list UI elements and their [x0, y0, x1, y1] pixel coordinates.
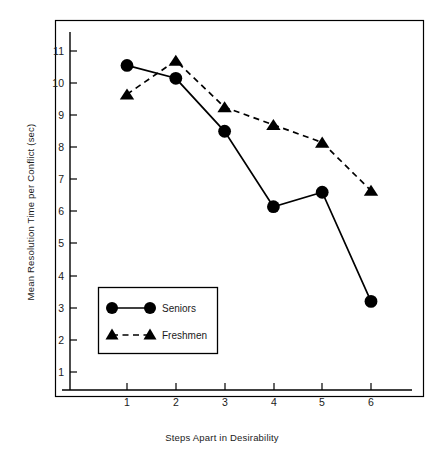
x-tick-label: 2 [173, 396, 179, 408]
y-tick-label: 1 [58, 366, 64, 378]
legend-label-seniors: Seniors [162, 303, 196, 314]
x-tick-label: 5 [319, 396, 325, 408]
legend-box [99, 288, 218, 354]
circle-marker-icon [218, 125, 231, 138]
y-tick-label: 6 [58, 205, 64, 217]
x-tick-label: 1 [124, 396, 130, 408]
x-axis-title: Steps Apart in Desirability [165, 432, 279, 443]
line-chart-figure: 11 10 9 8 7 6 5 4 3 2 1 1 2 3 4 5 [0, 0, 444, 459]
y-axis-title: Mean Resolution Time per Conflict (sec) [25, 124, 36, 301]
legend-label-freshmen: Freshmen [162, 330, 207, 341]
circle-marker-icon [144, 302, 156, 314]
y-tick-label: 7 [58, 173, 64, 185]
y-tick-label: 10 [52, 77, 64, 89]
y-tick-label: 8 [58, 141, 64, 153]
circle-marker-icon [365, 295, 378, 308]
chart-legend: Seniors Freshmen [99, 288, 218, 354]
y-tick-label: 2 [58, 334, 64, 346]
circle-marker-icon [316, 186, 329, 199]
x-tick-label: 6 [368, 396, 374, 408]
circle-marker-icon [169, 72, 182, 85]
x-tick-label: 4 [271, 396, 277, 408]
circle-marker-icon [267, 200, 280, 213]
y-tick-label: 5 [58, 237, 64, 249]
x-tick-label: 3 [222, 396, 228, 408]
y-tick-label: 11 [53, 45, 64, 57]
y-tick-label: 4 [58, 270, 64, 282]
circle-marker-icon [121, 59, 134, 72]
y-tick-label: 3 [58, 302, 64, 314]
circle-marker-icon [106, 302, 118, 314]
y-tick-label: 9 [58, 109, 64, 121]
